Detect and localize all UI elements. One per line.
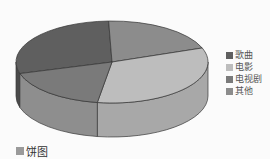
caption-swatch: [16, 147, 24, 155]
legend: 歌曲 电影 电视剧 其他: [226, 49, 262, 97]
chart-caption: 饼图: [16, 143, 48, 159]
legend-label: 歌曲: [235, 49, 253, 61]
legend-item-movies: 电影: [226, 61, 262, 73]
legend-item-other: 其他: [226, 85, 262, 97]
legend-swatch: [226, 64, 233, 71]
legend-label: 电视剧: [235, 73, 262, 85]
legend-label: 其他: [235, 85, 253, 97]
legend-swatch: [226, 52, 233, 59]
legend-swatch: [226, 76, 233, 83]
legend-item-songs: 歌曲: [226, 49, 262, 61]
legend-item-tv: 电视剧: [226, 73, 262, 85]
legend-label: 电影: [235, 61, 253, 73]
legend-swatch: [226, 88, 233, 95]
caption-label: 饼图: [26, 143, 48, 159]
